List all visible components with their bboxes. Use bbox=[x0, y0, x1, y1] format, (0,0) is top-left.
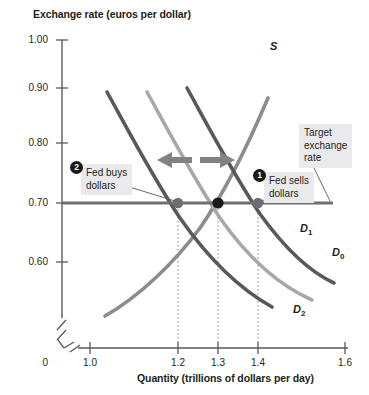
leader-line-target-rate bbox=[314, 168, 330, 201]
d1-label-sub: 1 bbox=[308, 228, 312, 237]
supply-curve-label: S bbox=[270, 40, 277, 52]
target-rate-line-3: rate bbox=[304, 152, 347, 165]
callout-fed-buys-dollars: Fed buys dollars bbox=[81, 164, 132, 195]
d2-label-base: D bbox=[293, 303, 301, 315]
exchange-rate-chart: Exchange rate (euros per dollar) Quantit… bbox=[0, 0, 369, 395]
droplines bbox=[178, 205, 258, 346]
callout-target-exchange-rate: Target exchange rate bbox=[299, 124, 352, 168]
origin-break-icon bbox=[58, 340, 80, 352]
point-fed-buys bbox=[173, 198, 183, 208]
demand-curve-d2 bbox=[107, 92, 272, 307]
y-axis-break-icon bbox=[57, 320, 66, 340]
callout-fed-sells-dollars: Fed sells dollars bbox=[264, 172, 314, 203]
fed-buys-line-2: dollars bbox=[86, 180, 127, 193]
badge-1: 1 bbox=[253, 169, 266, 182]
d0-label-base: D bbox=[332, 246, 340, 258]
target-rate-line-1: Target bbox=[304, 127, 347, 140]
d1-label-base: D bbox=[300, 222, 308, 234]
badge-2: 2 bbox=[70, 161, 83, 174]
demand-curve-d0-label: D0 bbox=[332, 246, 344, 261]
fed-sells-line-1: Fed sells bbox=[269, 175, 309, 188]
target-rate-line-2: exchange bbox=[304, 140, 347, 153]
demand-curve-d2-label: D2 bbox=[293, 303, 305, 318]
demand-curve-d1-label: D1 bbox=[300, 222, 312, 237]
fed-sells-line-2: dollars bbox=[269, 188, 309, 201]
point-fed-sells bbox=[253, 198, 263, 208]
d0-label-sub: 0 bbox=[340, 252, 344, 261]
fed-buys-line-1: Fed buys bbox=[86, 167, 127, 180]
point-initial-equilibrium bbox=[212, 197, 223, 208]
supply-curve-label-text: S bbox=[270, 40, 277, 52]
d2-label-sub: 2 bbox=[301, 309, 305, 318]
